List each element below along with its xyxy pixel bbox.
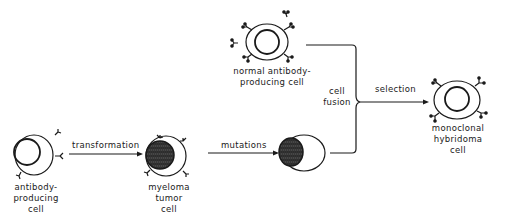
antibody-producing-cell-icon bbox=[14, 129, 63, 179]
mutations-edge-label: mutations bbox=[221, 140, 267, 151]
cell-fusion-label: cell fusion bbox=[322, 86, 352, 108]
fusion-junction bbox=[356, 96, 360, 108]
label-line: producing cell bbox=[232, 77, 312, 88]
selection-edge-label: selection bbox=[375, 84, 416, 95]
myeloma-tumor-cell-icon bbox=[144, 135, 189, 177]
fusion-line-bottom bbox=[330, 108, 356, 153]
label-line: normal antibody- bbox=[232, 66, 312, 77]
label-line: monoclonal bbox=[430, 123, 486, 134]
normal-antibody-producing-cell-icon bbox=[231, 11, 294, 62]
label-line: antibody- bbox=[8, 182, 64, 193]
selection-arrow bbox=[360, 100, 429, 105]
label-line: myeloma bbox=[144, 182, 194, 193]
label-line: cell bbox=[322, 86, 352, 97]
diagram-canvas bbox=[0, 0, 509, 217]
label-line: cell bbox=[430, 145, 486, 156]
mutations-arrow bbox=[208, 151, 279, 156]
mutated-myeloma-cell-icon bbox=[279, 135, 325, 171]
transformation-arrow bbox=[69, 152, 143, 157]
label-line: hybridoma bbox=[430, 134, 486, 145]
label-line: cell bbox=[8, 204, 64, 215]
myeloma-tumor-cell-label: myeloma tumor cell bbox=[144, 182, 194, 215]
monoclonal-hybridoma-cell-icon bbox=[430, 77, 487, 122]
transformation-edge-label: transformation bbox=[72, 140, 139, 151]
monoclonal-hybridoma-cell-label: monoclonal hybridoma cell bbox=[430, 123, 486, 156]
label-line: fusion bbox=[322, 97, 352, 108]
antibody-producing-cell-label: antibody- producing cell bbox=[8, 182, 64, 215]
label-line: producing bbox=[8, 193, 64, 204]
label-line: cell bbox=[144, 204, 194, 215]
normal-antibody-producing-cell-label: normal antibody- producing cell bbox=[232, 66, 312, 88]
label-line: tumor bbox=[144, 193, 194, 204]
